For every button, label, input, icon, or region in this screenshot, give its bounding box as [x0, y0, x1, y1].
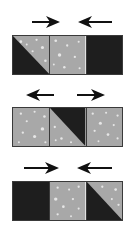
pressing-arrows-inward	[0, 161, 132, 175]
quilt-unit-2	[12, 107, 123, 147]
arrow-right-icon	[32, 16, 60, 28]
light-square	[86, 108, 122, 146]
quilt-unit-1	[12, 35, 123, 75]
dark-square	[13, 182, 49, 220]
dark-square	[86, 36, 122, 74]
light-square	[13, 108, 49, 146]
arrow-left-icon	[26, 89, 54, 101]
half-square-triangle	[86, 182, 122, 220]
arrow-left-icon	[77, 162, 112, 174]
arrow-left-icon	[78, 16, 112, 28]
light-square	[49, 182, 85, 220]
half-square-triangle	[49, 108, 85, 146]
arrow-right-icon	[24, 162, 59, 174]
pressing-arrows-outward	[0, 88, 132, 102]
arrow-right-icon	[77, 89, 105, 101]
half-square-triangle	[13, 36, 49, 74]
quilt-unit-3	[12, 181, 123, 221]
light-square	[49, 36, 85, 74]
pressing-arrows-inward	[0, 15, 132, 29]
